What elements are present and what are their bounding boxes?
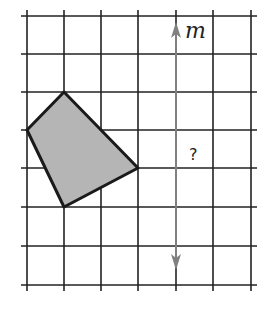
reflection-diagram: m ? [0,0,276,312]
quadrilateral-shape [27,92,138,207]
question-mark: ? [189,145,198,164]
mirror-line-label: m [185,18,206,43]
mirror-line-m [171,22,181,270]
